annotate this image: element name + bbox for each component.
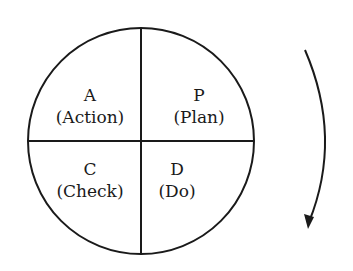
quadrant-letter: A (35, 84, 145, 106)
clockwise-arrow-icon (305, 50, 325, 222)
quadrant-name: (Do) (122, 180, 232, 202)
quadrant-plan: P (Plan) (144, 84, 254, 128)
quadrant-name: (Plan) (144, 106, 254, 128)
quadrant-letter: D (122, 158, 232, 180)
quadrant-do: D (Do) (122, 158, 232, 202)
quadrant-letter: P (144, 84, 254, 106)
arrowhead-icon (304, 214, 314, 229)
quadrant-action: A (Action) (35, 84, 145, 128)
pdca-diagram (0, 0, 353, 271)
quadrant-name: (Action) (35, 106, 145, 128)
